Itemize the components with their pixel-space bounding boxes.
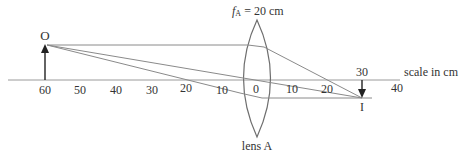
ray-diagram: O I fA = 20 cm lens A 60 50 40 30 20 10 … — [0, 0, 459, 160]
tick-30: 30 — [146, 83, 158, 97]
tick-10: 10 — [216, 83, 228, 97]
object-label: O — [40, 28, 49, 43]
image-label: I — [360, 100, 364, 114]
tick-right-30: 30 — [356, 65, 368, 79]
central-ray — [47, 45, 362, 98]
tick-40: 40 — [110, 83, 122, 97]
focal-length-label: fA = 20 cm — [232, 4, 284, 18]
tick-right-10: 10 — [286, 82, 298, 96]
lens-label: lens A — [242, 139, 273, 153]
tick-right-40: 40 — [391, 81, 403, 95]
tick-right-20: 20 — [321, 82, 333, 96]
scale-label: scale in cm — [404, 65, 459, 79]
tick-50: 50 — [74, 83, 86, 97]
tick-0: 0 — [253, 82, 259, 96]
tick-20: 20 — [180, 81, 192, 95]
tick-60: 60 — [39, 83, 51, 97]
